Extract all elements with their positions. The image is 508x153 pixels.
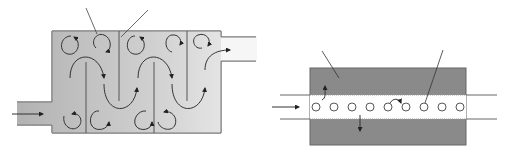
particle-icon [420, 103, 428, 111]
particle-icon [330, 103, 338, 111]
particle-icon [312, 103, 320, 111]
particle-icon [384, 103, 392, 111]
leader-line [86, 8, 97, 34]
diagram-canvas [0, 0, 508, 153]
particle-icon [348, 103, 356, 111]
reactor-diagram-figure [0, 0, 508, 153]
particle-icon [366, 103, 374, 111]
particle-icon [456, 103, 464, 111]
particle-icon [438, 103, 446, 111]
tubular-reactor [272, 50, 497, 145]
tank-fill [17, 31, 256, 133]
outlet-pipe-fade [221, 37, 257, 61]
particles [312, 103, 464, 111]
particle-icon [402, 103, 410, 111]
baffled-reactor [12, 8, 257, 133]
